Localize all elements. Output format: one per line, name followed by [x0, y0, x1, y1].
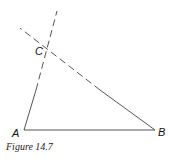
- segment-bc-solid: [100, 90, 155, 130]
- segment-bc-dashed: [20, 28, 100, 90]
- point-label-a: A: [12, 128, 19, 139]
- point-label-c: C: [35, 46, 43, 57]
- figure-caption: Figure 14.7: [6, 142, 53, 152]
- point-label-b: B: [158, 127, 165, 138]
- segment-ac-solid: [24, 90, 36, 130]
- triangle-diagram: [0, 0, 173, 160]
